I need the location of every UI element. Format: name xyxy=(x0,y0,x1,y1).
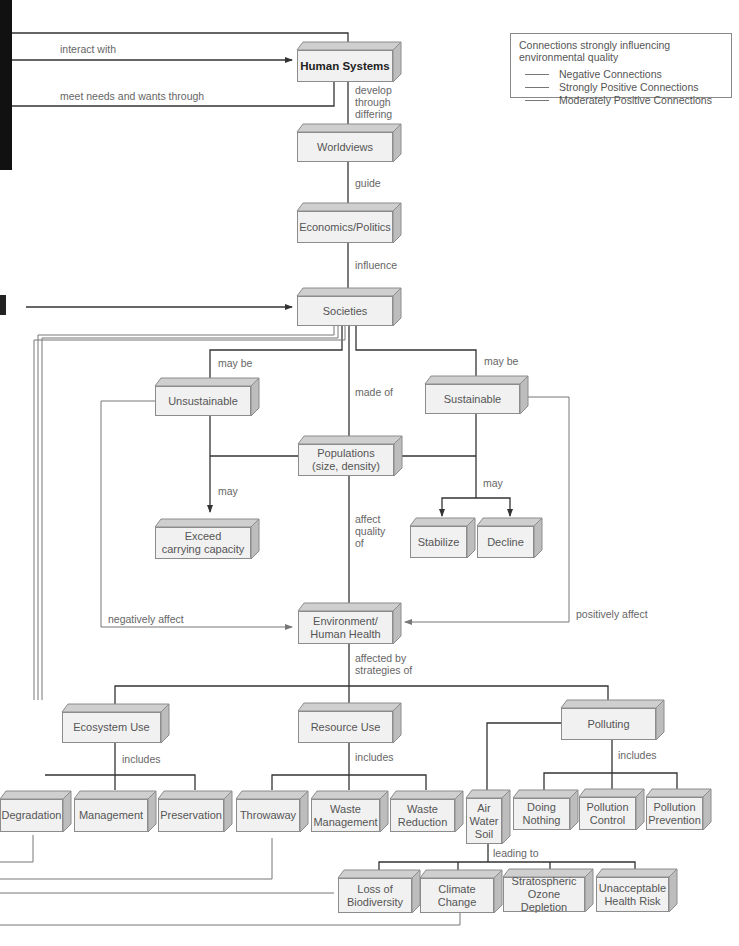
node-loss-of-biodiversity: Loss of Biodiversity xyxy=(338,870,420,913)
node-worldviews: Worldviews xyxy=(297,124,401,162)
legend-swatch xyxy=(525,74,549,75)
label-includes-resource: includes xyxy=(355,751,394,763)
legend-item-strong-positive: Strongly Positive Connections xyxy=(519,81,723,93)
node-waste-management: Waste Management xyxy=(311,791,388,832)
node-stratospheric-ozone-depletion: Stratospheric Ozone Depletion xyxy=(503,869,593,912)
label-affect-quality: affect quality of xyxy=(355,513,385,549)
label-influence: influence xyxy=(355,259,397,271)
label-made-of: made of xyxy=(355,386,393,398)
node-doing-nothing: Doing Nothing xyxy=(513,790,578,830)
node-management: Management xyxy=(74,791,156,832)
label-may-be-right: may be xyxy=(484,355,518,367)
node-unsustainable: Unsustainable xyxy=(155,378,259,416)
label-meet-needs: meet needs and wants through xyxy=(60,90,204,102)
label-includes-polluting: includes xyxy=(618,749,657,761)
legend-swatch xyxy=(525,100,549,101)
node-waste-reduction: Waste Reduction xyxy=(390,791,463,832)
node-economics-politics: Economics/Politics xyxy=(297,203,401,243)
node-environment-human-health: Environment/ Human Health xyxy=(298,603,401,644)
label-negatively-affect: negatively affect xyxy=(108,613,184,625)
label-positively-affect: positively affect xyxy=(576,608,648,620)
label-affected-by: affected by strategies of xyxy=(355,652,412,676)
node-resource-use: Resource Use xyxy=(298,703,401,743)
node-human-systems: Human Systems xyxy=(297,42,401,82)
label-leading-to: leading to xyxy=(493,847,539,859)
legend-title: Connections strongly influencing environ… xyxy=(519,39,723,63)
node-ecosystem-use: Ecosystem Use xyxy=(62,704,169,743)
node-decline: Decline xyxy=(477,518,542,558)
label-may-left: may xyxy=(218,485,238,497)
node-pollution-control: Pollution Control xyxy=(579,789,644,830)
node-sustainable: Sustainable xyxy=(425,376,528,414)
node-populations: Populations (size, density) xyxy=(298,436,402,476)
node-climate-change: Climate Change xyxy=(420,870,502,913)
label-develop-through: develop through differing xyxy=(355,84,392,120)
node-exceed-carrying-capacity: Exceed carrying capacity xyxy=(155,519,259,559)
legend-item-moderate-positive: Moderately Positive Connections xyxy=(519,94,723,106)
label-may-be-left: may be xyxy=(218,357,252,369)
node-stabilize: Stabilize xyxy=(410,518,475,558)
label-interact-with: interact with xyxy=(60,43,116,55)
label-may-right: may xyxy=(483,477,503,489)
node-preservation: Preservation xyxy=(158,791,232,832)
node-throwaway: Throwaway xyxy=(236,791,308,832)
label-guide: guide xyxy=(355,177,381,189)
label-includes-ecosystem: includes xyxy=(122,753,161,765)
node-air-water-soil: Air Water Soil xyxy=(466,790,510,844)
legend-item-negative: Negative Connections xyxy=(519,68,723,80)
node-societies: Societies xyxy=(297,288,401,326)
node-degradation: Degradation xyxy=(0,791,71,832)
node-polluting: Polluting xyxy=(561,700,664,740)
node-pollution-prevention: Pollution Prevention xyxy=(646,789,711,830)
legend: Connections strongly influencing environ… xyxy=(510,33,732,98)
legend-swatch xyxy=(525,87,549,88)
node-unacceptable-health-risk: Unacceptable Health Risk xyxy=(596,869,677,912)
